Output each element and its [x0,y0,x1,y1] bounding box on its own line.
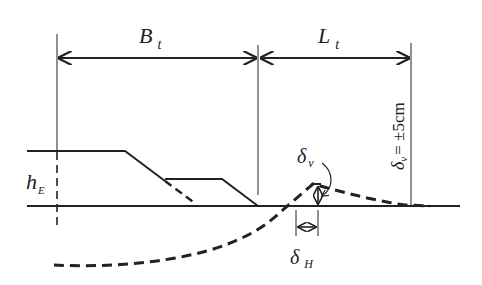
dv-label: δv [297,145,314,170]
original-embankment-outline [27,151,165,181]
embankment-deformation-diagram: Bt Lt hE δv δH δv= ±5cm [0,0,482,285]
dv-leader-arrow [322,163,331,196]
deformed-ground-curve [54,184,430,266]
dH-label: δH [290,246,314,271]
embankment-hidden-slope [165,181,196,204]
dv-limit-label: δv= ±5cm [388,102,409,170]
svg-text:δv= ±5cm: δv= ±5cm [388,102,409,170]
Lt-label: Lt [317,23,340,52]
hE-label: hE [26,169,45,196]
Bt-label: Bt [139,23,162,52]
